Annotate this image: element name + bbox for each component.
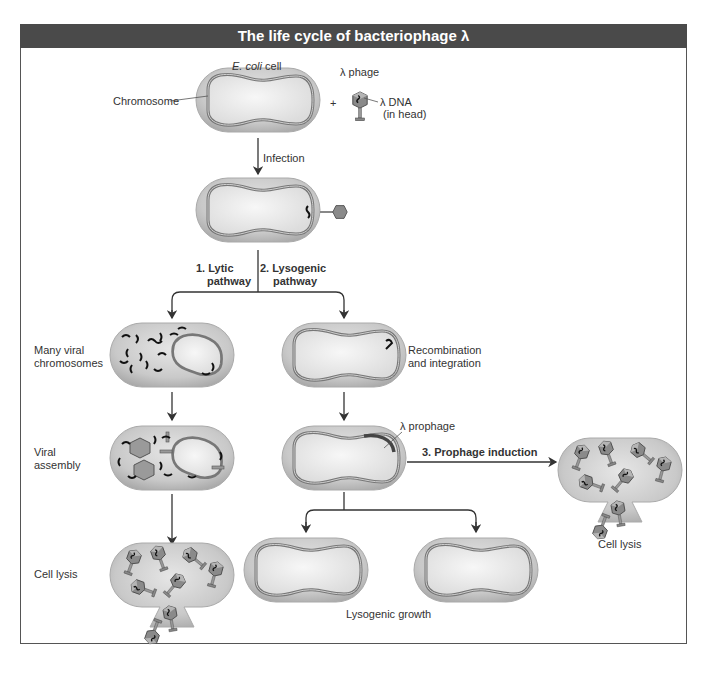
many-viral-label-1: Many viral [34, 344, 84, 357]
cell-lysis-right-label: Cell lysis [598, 538, 641, 551]
many-viral-label-2: chromosomes [34, 357, 103, 370]
ecoli-cell-label: E. coli cell [232, 60, 282, 73]
lytic-pathway-label-1: 1. Lytic [196, 262, 234, 275]
prophage-induction-label: 3. Prophage induction [422, 446, 538, 459]
ecoli-cell [196, 68, 320, 132]
viral-assembly-label-2: assembly [34, 459, 80, 472]
chromosome-label: Chromosome [113, 95, 179, 108]
ecoli-italic: E. coli [232, 60, 262, 72]
viral-assembly-label-1: Viral [34, 446, 56, 459]
prophage-label: λ prophage [400, 420, 455, 433]
lysogenic-pathway-label-1: 2. Lysogenic [260, 262, 326, 275]
lysogenic-growth-label: Lysogenic growth [346, 608, 431, 621]
cell-lysis-left-label: Cell lysis [34, 568, 77, 581]
cell-word: cell [265, 60, 282, 72]
plus-sign: + [330, 97, 336, 110]
recombination-label-2: and integration [408, 357, 481, 370]
in-head-label: (in head) [383, 108, 426, 121]
life-cycle-diagram [0, 0, 709, 675]
infection-label: Infection [263, 152, 305, 165]
recombination-label-1: Recombination [408, 344, 481, 357]
lambda-phage-label: λ phage [340, 66, 379, 79]
lytic-pathway-label-2: pathway [207, 275, 251, 288]
lysogenic-pathway-label-2: pathway [273, 275, 317, 288]
